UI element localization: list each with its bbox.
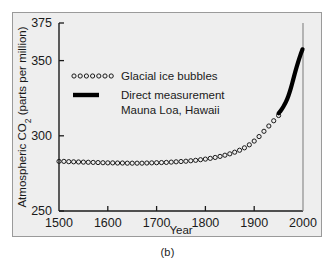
chart-axes (59, 23, 303, 211)
figure-frame: 250300350375 150016001700180019002000 Gl… (12, 12, 322, 237)
data-point-ice-bubble (169, 160, 173, 164)
data-point-ice-bubble (72, 160, 76, 164)
data-point-ice-bubble (242, 146, 246, 150)
data-point-ice-bubble (223, 153, 227, 157)
data-point-ice-bubble (96, 160, 100, 164)
legend-label-glacial-ice: Glacial ice bubbles (121, 70, 218, 82)
data-point-ice-bubble (164, 160, 168, 164)
legend-open-circle (103, 74, 107, 78)
data-point-ice-bubble (213, 155, 217, 159)
y-tick-label: 300 (31, 129, 52, 143)
data-point-ice-bubble (179, 159, 183, 163)
legend-marker-open-circles (72, 74, 113, 78)
series-direct-measurement (279, 49, 303, 113)
x-tick-label: 1600 (94, 216, 122, 230)
legend-label-mauna-loa: Mauna Loa, Hawaii (121, 104, 219, 116)
data-point-ice-bubble (115, 161, 119, 165)
data-point-ice-bubble (237, 148, 241, 152)
data-point-ice-bubble (76, 160, 80, 164)
data-point-ice-bubble (62, 159, 66, 163)
x-tick-group (108, 206, 254, 211)
y-tick-label: 375 (31, 16, 52, 30)
series-glacial-ice-bubbles (57, 113, 281, 165)
legend-open-circle (91, 74, 95, 78)
data-point-ice-bubble (233, 150, 237, 154)
data-point-ice-bubble (247, 143, 251, 147)
data-point-ice-bubble (218, 154, 222, 158)
data-point-ice-bubble (228, 152, 232, 156)
legend-open-circle (109, 74, 113, 78)
y-tick-label: 350 (31, 54, 52, 68)
data-point-ice-bubble (208, 156, 212, 160)
data-point-ice-bubble (150, 161, 154, 165)
x-tick-label: 1800 (191, 216, 219, 230)
data-point-ice-bubble (198, 158, 202, 162)
data-point-ice-bubble (252, 139, 256, 143)
x-axis-title: Year (169, 224, 192, 236)
data-point-ice-bubble (106, 161, 110, 165)
figure-caption: (b) (0, 246, 335, 258)
y-tick-group (59, 23, 64, 211)
x-tick-label: 1700 (143, 216, 171, 230)
x-tick-label: 1900 (240, 216, 268, 230)
data-point-ice-bubble (189, 159, 193, 163)
y-tick-labels: 250300350375 (31, 16, 52, 218)
data-point-ice-bubble (101, 161, 105, 165)
legend-open-circle (84, 74, 88, 78)
data-point-ice-bubble (145, 161, 149, 165)
data-point-ice-bubble (67, 160, 71, 164)
data-point-ice-bubble (91, 160, 95, 164)
legend-open-circle (78, 74, 82, 78)
data-point-ice-bubble (272, 119, 276, 123)
data-point-ice-bubble (194, 158, 198, 162)
data-point-ice-bubble (184, 159, 188, 163)
data-point-ice-bubble (140, 161, 144, 165)
data-point-ice-bubble (267, 124, 271, 128)
co2-chart: 250300350375 150016001700180019002000 Gl… (13, 13, 321, 236)
legend-label-direct-measurement: Direct measurement (121, 89, 225, 101)
data-point-ice-bubble (155, 161, 159, 165)
data-point-ice-bubble (262, 129, 266, 133)
legend-open-circle (72, 74, 76, 78)
data-point-ice-bubble (174, 160, 178, 164)
data-point-ice-bubble (203, 157, 207, 161)
x-tick-label: 1500 (45, 216, 73, 230)
x-tick-label: 2000 (289, 216, 317, 230)
data-point-ice-bubble (159, 160, 163, 164)
data-point-ice-bubble (130, 161, 134, 165)
chart-legend: Glacial ice bubbles Direct measurement M… (72, 70, 225, 116)
data-point-ice-bubble (120, 161, 124, 165)
data-point-ice-bubble (125, 161, 129, 165)
data-point-ice-bubble (135, 161, 139, 165)
data-point-ice-bubble (257, 134, 261, 138)
data-point-ice-bubble (111, 161, 115, 165)
figure-container: 250300350375 150016001700180019002000 Gl… (0, 0, 335, 273)
data-point-ice-bubble (81, 160, 85, 164)
data-point-ice-bubble (86, 160, 90, 164)
legend-open-circle (97, 74, 101, 78)
